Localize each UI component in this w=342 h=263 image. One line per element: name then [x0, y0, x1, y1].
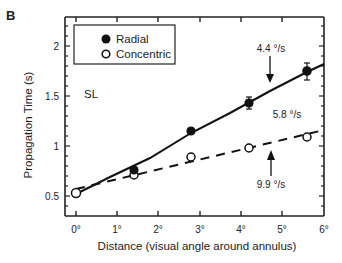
x-tick-labels: 0° 1° 2° 3° 4° 5° 6° [71, 224, 329, 235]
x-tick-label: 1° [112, 224, 122, 235]
legend: Radial Concentric [74, 25, 175, 64]
x-tick-label: 3° [195, 224, 205, 235]
x-tick-label: 2° [153, 224, 163, 235]
radial-fit-line [76, 64, 324, 194]
data-point [245, 144, 253, 152]
arrow-down-icon [266, 74, 274, 83]
legend-label-radial: Radial [116, 33, 149, 45]
subject-label: SL [84, 88, 99, 100]
data-point [303, 133, 311, 141]
y-tick-label: 0.5 [45, 191, 59, 202]
data-point [72, 189, 81, 198]
data-point [245, 99, 253, 107]
propagation-time-chart: B [0, 0, 342, 263]
data-point [187, 127, 195, 135]
annotation-9-9: 9.9 °/s [257, 150, 285, 190]
x-axis-label: Distance (visual angle around annulus) [98, 240, 297, 252]
annotation-text: 4.4 °/s [257, 43, 285, 54]
annotation-4-4: 4.4 °/s [257, 43, 285, 83]
annotation-text: 5.8 °/s [273, 109, 301, 120]
data-point [187, 153, 195, 161]
x-tick-label: 6° [319, 224, 329, 235]
y-tick-label: 1.5 [45, 91, 59, 102]
y-tick-label: 1 [53, 141, 59, 152]
panel-label: B [6, 8, 15, 23]
filled-circle-icon [102, 35, 111, 44]
y-tick-label: 2 [53, 41, 59, 52]
annotation-text: 9.9 °/s [257, 179, 285, 190]
open-circle-icon [102, 50, 110, 58]
legend-label-concentric: Concentric [116, 48, 171, 60]
data-point [130, 166, 138, 174]
data-point [303, 67, 311, 75]
x-tick-label: 0° [71, 224, 81, 235]
y-tick-labels: 0.5 1 1.5 2 [45, 41, 59, 202]
x-tick-label: 4° [236, 224, 246, 235]
concentric-fit-line [76, 130, 324, 189]
y-axis-label: Propagation Time (s) [22, 71, 34, 178]
x-tick-label: 5° [277, 224, 287, 235]
arrow-up-icon [267, 150, 275, 160]
